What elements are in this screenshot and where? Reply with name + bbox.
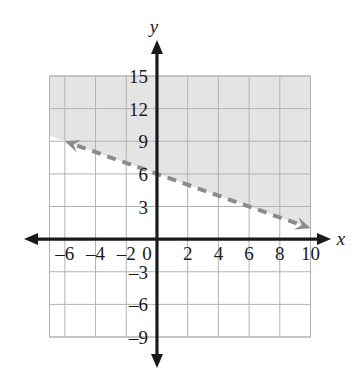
- y-axis-arrow-down: [151, 354, 163, 368]
- graph-figure: –6–4–202468101512963–3–6–9xy: [0, 0, 361, 387]
- y-axis-label: y: [148, 16, 159, 37]
- x-tick-label: 2: [183, 243, 193, 264]
- y-tick-label: 3: [138, 197, 148, 218]
- y-axis-arrow-up: [151, 40, 163, 54]
- x-tick-label: 10: [301, 243, 320, 264]
- x-tick-label: 4: [214, 243, 224, 264]
- shaded-region-group: [50, 76, 311, 228]
- y-tick-label: –3: [128, 262, 148, 283]
- coordinate-plane: –6–4–202468101512963–3–6–9xy: [0, 0, 361, 387]
- y-tick-label: 6: [138, 164, 148, 185]
- x-tick-label: 8: [275, 243, 285, 264]
- x-tick-label: –4: [85, 243, 106, 264]
- x-tick-label: –6: [54, 243, 74, 264]
- x-axis-arrow-left: [24, 233, 38, 245]
- y-tick-label: 15: [129, 66, 148, 87]
- x-axis-label: x: [336, 228, 346, 249]
- x-tick-label: 6: [244, 243, 254, 264]
- y-tick-label: 9: [138, 131, 148, 152]
- y-tick-label: –6: [128, 294, 148, 315]
- y-tick-label: 12: [129, 99, 148, 120]
- y-tick-label: –9: [128, 327, 148, 348]
- solution-region-fill: [50, 76, 311, 228]
